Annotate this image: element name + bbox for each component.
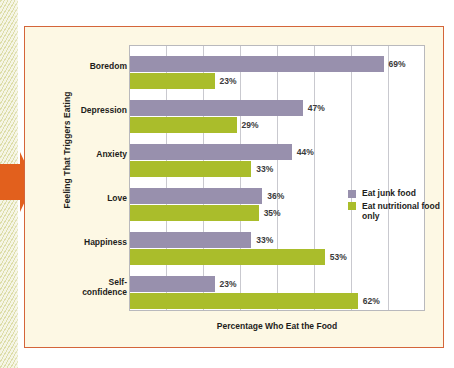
legend-swatch-junk-food [348,190,356,198]
x-axis-title: Percentage Who Eat the Food [129,321,425,331]
legend-swatch-nutritional-food [348,202,356,210]
bar-value-depression-junk: 47% [308,100,325,116]
bar-value-boredom-junk: 69% [389,56,406,72]
gridline-60 [351,46,352,310]
plot-area: 69% 23% 47% 29% 44% 33% 36% 35% [129,45,425,311]
bar-self-confidence-junk [130,276,215,292]
bar-happiness-junk [130,232,251,248]
bar-love-junk [130,188,262,204]
bar-self-confidence-nutri [130,293,358,309]
bar-boredom-nutri [130,73,215,89]
gridline-30 [240,46,241,310]
legend-item-junk-food: Eat junk food [348,188,444,199]
legend-label-junk-food: Eat junk food [362,188,416,198]
bar-anxiety-nutri [130,161,251,177]
category-label-self-confidence: Self- confidence [51,277,127,297]
bar-anxiety-junk [130,144,292,160]
category-label-happiness: Happiness [51,237,127,247]
category-label-self-confidence-line2: confidence [82,287,127,297]
bar-depression-nutri [130,117,237,133]
category-label-self-confidence-line1: Self- [109,277,127,287]
bar-value-self-confidence-nutri: 62% [363,293,380,309]
bar-value-anxiety-nutri: 33% [256,161,273,177]
bar-value-anxiety-junk: 44% [297,144,314,160]
chart-legend: Eat junk food Eat nutritional food only [348,188,444,224]
category-label-love: Love [51,193,127,203]
bar-value-self-confidence-junk: 23% [220,276,237,292]
category-label-boredom: Boredom [51,61,127,71]
bar-value-depression-nutri: 29% [242,117,259,133]
bar-boredom-junk [130,56,384,72]
bar-love-nutri [130,205,259,221]
bar-value-love-nutri: 35% [264,205,281,221]
gridline-40 [277,46,278,310]
legend-label-nutritional-food: Eat nutritional food only [362,201,440,222]
category-label-depression: Depression [51,105,127,115]
figure-panel: Feeling That Triggers Eating Boredom Dep… [24,26,444,348]
legend-item-nutritional-food: Eat nutritional food only [348,201,444,222]
bar-value-love-junk: 36% [267,188,284,204]
gridline-70 [388,46,389,310]
gridline-50 [314,46,315,310]
bar-value-happiness-nutri: 53% [330,249,347,265]
category-label-anxiety: Anxiety [51,149,127,159]
bar-chart: Boredom Depression Anxiety Love Happines… [25,27,445,349]
bar-value-boredom-nutri: 23% [220,73,237,89]
bar-happiness-nutri [130,249,325,265]
bar-depression-junk [130,100,303,116]
category-axis: Boredom Depression Anxiety Love Happines… [51,45,127,311]
bar-value-happiness-junk: 33% [256,232,273,248]
